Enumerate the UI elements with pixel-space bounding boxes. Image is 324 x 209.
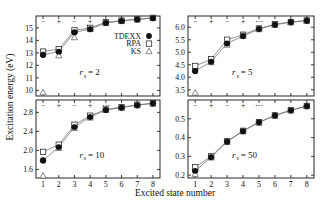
parity-symbol: + [57, 17, 61, 26]
panel-label-sub: s [84, 155, 87, 161]
parity-symbol: ⋯ [255, 17, 263, 26]
y-tick-label: 2.8 [23, 108, 33, 117]
panel-2: 3.54.04.55.05.56.0−+−+⋯rs= 5 [175, 16, 314, 96]
y-tick-label: 5.5 [175, 36, 185, 45]
y-tick-label: 0.3 [175, 152, 185, 161]
legend: TDEXXRPAKS [114, 32, 152, 56]
panel-label-value: = 2 [88, 67, 100, 77]
legend-marker-ks [146, 48, 152, 54]
y-tick-label: 2.0 [23, 146, 33, 155]
parity-symbol: + [241, 101, 245, 110]
marker-tdexx [208, 154, 214, 160]
marker-tdexx [224, 139, 230, 145]
parity-symbol: − [225, 17, 229, 26]
panel-label-value: = 10 [88, 150, 105, 160]
parity-symbol: − [41, 101, 45, 110]
panel-label-sub: s [237, 73, 240, 79]
parity-symbol: + [241, 17, 245, 26]
legend-marker-rpa [146, 41, 151, 46]
panel-frame [36, 100, 160, 178]
marker-tdexx [272, 113, 278, 119]
marker-tdexx [40, 52, 46, 58]
marker-tdexx [256, 119, 262, 125]
marker-tdexx [40, 158, 46, 164]
parity-symbol: − [72, 101, 76, 110]
x-tick-label: 5 [104, 180, 108, 189]
marker-tdexx [192, 168, 198, 174]
parity-symbol: + [209, 17, 213, 26]
panel-frame [36, 16, 160, 96]
marker-tdexx [134, 16, 140, 22]
parity-symbol: − [193, 17, 197, 26]
marker-tdexx [103, 107, 109, 113]
panel-frame [188, 100, 314, 178]
panel-4: 0.20.30.40.512345678−+−+⋯rs= 50 [175, 100, 314, 189]
x-tick-label: 5 [257, 180, 261, 189]
marker-tdexx [150, 15, 156, 21]
y-tick-label: 4.5 [175, 61, 185, 70]
marker-tdexx [240, 128, 246, 134]
x-tick-label: 4 [88, 180, 92, 189]
x-axis-title: Excited state number [135, 188, 216, 198]
marker-tdexx [192, 68, 198, 74]
marker-tdexx [256, 26, 262, 32]
panel-3: 1.62.02.42.812345678−+−+⋯rs= 10 [23, 100, 160, 189]
panel-label: r [232, 67, 236, 77]
marker-tdexx [240, 33, 246, 39]
y-tick-label: 10 [25, 86, 33, 95]
marker-tdexx [119, 105, 125, 111]
marker-tdexx [288, 19, 294, 25]
y-tick-label: 0.4 [175, 133, 185, 142]
panel-label: r [79, 67, 83, 77]
y-tick-label: 11 [25, 74, 33, 83]
parity-symbol: ⋯ [255, 101, 263, 110]
parity-symbol: + [209, 101, 213, 110]
y-axis-title: Excitation energy (eV) [5, 54, 16, 141]
marker-tdexx [72, 29, 78, 35]
marker-tdexx [134, 102, 140, 108]
y-tick-label: 15 [25, 24, 33, 33]
marker-tdexx [72, 124, 78, 130]
marker-tdexx [87, 26, 93, 32]
y-tick-label: 12 [25, 61, 33, 70]
marker-tdexx [150, 100, 156, 106]
marker-tdexx [272, 22, 278, 28]
panel-label: r [79, 150, 83, 160]
y-tick-label: 5.0 [175, 48, 185, 57]
panel-label-value: = 5 [241, 67, 253, 77]
marker-tdexx [103, 20, 109, 26]
x-tick-label: 7 [289, 180, 293, 189]
parity-symbol: − [41, 17, 45, 26]
marker-rpa [192, 63, 197, 68]
marker-tdexx [304, 103, 310, 109]
parity-symbol: − [225, 101, 229, 110]
x-tick-label: 4 [241, 180, 245, 189]
panel-label-sub: s [237, 155, 240, 161]
parity-symbol: + [88, 101, 92, 110]
x-tick-label: 3 [72, 180, 76, 189]
y-tick-label: 14 [25, 36, 33, 45]
panel-frame [188, 16, 314, 96]
panel-label-sub: s [84, 73, 87, 79]
x-tick-label: 1 [41, 180, 45, 189]
y-tick-label: 0.5 [175, 115, 185, 124]
marker-tdexx [56, 144, 62, 150]
marker-ks [192, 90, 198, 96]
marker-tdexx [87, 114, 93, 120]
parity-symbol: − [193, 101, 197, 110]
multi-panel-chart: 101112131415−+−+⋯rs= 23.54.04.55.05.56.0… [0, 0, 324, 209]
marker-ks [40, 173, 46, 179]
legend-marker-tdexx [146, 33, 152, 39]
marker-ks [40, 89, 46, 95]
marker-tdexx [288, 107, 294, 113]
panel-label-value: = 50 [241, 150, 258, 160]
marker-tdexx [304, 18, 310, 24]
marker-rpa [40, 149, 45, 154]
marker-tdexx [224, 41, 230, 47]
parity-symbol: + [88, 17, 92, 26]
x-tick-label: 8 [305, 180, 309, 189]
x-tick-label: 3 [225, 180, 229, 189]
x-tick-label: 2 [57, 180, 61, 189]
x-tick-label: 6 [120, 180, 124, 189]
parity-symbol: − [72, 17, 76, 26]
